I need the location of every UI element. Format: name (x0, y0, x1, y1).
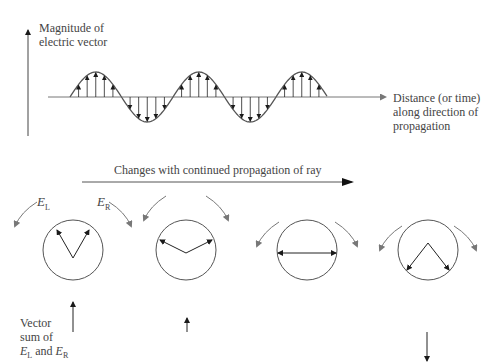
component-vector-arrow (73, 230, 89, 258)
phasor-stages (15, 196, 476, 361)
component-vector-arrow (407, 243, 428, 270)
vector-sum-label-line1: Vector (20, 316, 51, 330)
component-vector-arrow (160, 240, 186, 253)
component-vector-arrow (57, 230, 73, 258)
left-rotation-arrow (144, 196, 166, 220)
right-rotation-arrow (335, 222, 357, 246)
x-axis-label-line2: along direction of (393, 105, 478, 119)
left-rotating-component-label: EL (37, 195, 50, 215)
component-vector-arrow (428, 243, 449, 270)
x-axis-label-line1: Distance (or time) (393, 91, 480, 105)
y-axis-label-line2: electric vector (39, 35, 107, 49)
left-rotation-arrow (15, 202, 37, 226)
phasor-circle (398, 220, 458, 280)
propagation-caption: Changes with continued propagation of ra… (114, 163, 322, 177)
left-rotation-arrow (257, 222, 279, 246)
right-rotation-arrow (206, 196, 228, 220)
vector-sum-label-line3: EL and ER (20, 344, 68, 363)
x-axis-label-line3: propagation (393, 119, 450, 133)
circular-polarization-diagram (0, 0, 498, 363)
y-axis-label-line1: Magnitude of (39, 21, 104, 35)
component-vector-arrow (186, 240, 212, 253)
phasor-circle (43, 220, 103, 280)
right-rotating-component-label: ER (97, 195, 110, 215)
phasor-circle (277, 220, 337, 280)
right-rotation-arrow (109, 202, 131, 226)
phasor-circle (156, 220, 216, 280)
vector-sum-label-line2: sum of (20, 330, 53, 344)
